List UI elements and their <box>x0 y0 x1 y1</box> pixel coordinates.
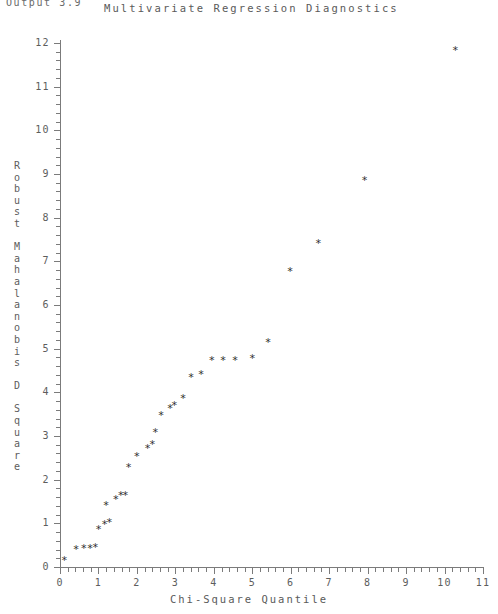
y-tick-minor <box>56 384 60 385</box>
y-tick-minor <box>56 506 60 507</box>
data-point: * <box>220 354 227 365</box>
y-tick-minor <box>56 52 60 53</box>
y-tick-minor <box>56 122 60 123</box>
x-axis-title: Chi-Square Quantile <box>0 593 498 605</box>
x-tick-minor <box>383 568 384 572</box>
x-tick-minor <box>414 568 415 572</box>
x-tick-minor <box>222 568 223 572</box>
data-point: * <box>152 427 159 438</box>
x-tick-major <box>175 568 176 574</box>
y-tick-minor <box>56 191 60 192</box>
y-tick-minor <box>56 410 60 411</box>
x-tick-label: 10 <box>430 577 460 588</box>
y-tick-label-wrap: 8 <box>20 218 50 230</box>
y-tick-minor <box>56 366 60 367</box>
data-point: * <box>232 354 239 365</box>
y-tick-minor <box>56 104 60 105</box>
x-tick-minor <box>114 568 115 572</box>
y-tick-label-wrap: 4 <box>20 392 50 404</box>
data-point: * <box>92 542 99 553</box>
x-tick-minor <box>229 568 230 572</box>
y-tick-minor <box>56 113 60 114</box>
y-tick-major <box>54 480 60 481</box>
x-tick-label: 11 <box>468 577 498 588</box>
y-tick-minor <box>56 253 60 254</box>
x-tick-minor <box>321 568 322 572</box>
y-tick-major <box>54 130 60 131</box>
y-tick-minor <box>56 157 60 158</box>
x-tick-minor <box>191 568 192 572</box>
y-tick-label-wrap: 11 <box>20 87 50 99</box>
x-tick-minor <box>268 568 269 572</box>
y-tick-major <box>54 87 60 88</box>
y-tick-minor <box>56 558 60 559</box>
y-tick-minor <box>56 183 60 184</box>
x-tick-minor <box>245 568 246 572</box>
x-tick-minor <box>91 568 92 572</box>
x-tick-minor <box>437 568 438 572</box>
y-tick-minor <box>56 488 60 489</box>
x-tick-minor <box>352 568 353 572</box>
y-tick-label-wrap: 12 <box>20 43 50 55</box>
data-point: * <box>209 354 216 365</box>
x-tick-major <box>291 568 292 574</box>
data-point: * <box>315 238 322 249</box>
x-tick-minor <box>275 568 276 572</box>
y-tick-label: 1 <box>28 517 50 528</box>
x-tick-minor <box>421 568 422 572</box>
x-tick-major <box>406 568 407 574</box>
y-tick-minor <box>56 419 60 420</box>
y-tick-minor <box>56 357 60 358</box>
y-tick-label-wrap: 7 <box>20 261 50 273</box>
x-tick-minor <box>145 568 146 572</box>
x-tick-label: 9 <box>391 577 421 588</box>
x-tick-minor <box>475 568 476 572</box>
data-point: * <box>106 516 113 527</box>
x-tick-minor <box>306 568 307 572</box>
y-tick-minor <box>56 60 60 61</box>
y-tick-minor <box>56 139 60 140</box>
y-tick-minor <box>56 331 60 332</box>
x-tick-major <box>252 568 253 574</box>
x-tick-major <box>329 568 330 574</box>
y-tick-label-wrap: 6 <box>20 305 50 317</box>
x-tick-label: 7 <box>314 577 344 588</box>
y-tick-major <box>54 436 60 437</box>
x-tick-minor <box>429 568 430 572</box>
data-point: * <box>125 462 132 473</box>
y-tick-label: 11 <box>28 81 50 92</box>
data-point: * <box>287 265 294 276</box>
y-tick-major <box>54 174 60 175</box>
data-point: * <box>265 337 272 348</box>
x-tick-minor <box>168 568 169 572</box>
y-tick-label-wrap: 1 <box>20 523 50 535</box>
x-tick-label: 4 <box>199 577 229 588</box>
y-tick-minor <box>56 471 60 472</box>
x-tick-minor <box>260 568 261 572</box>
data-point: * <box>188 371 195 382</box>
data-point: * <box>452 45 459 56</box>
y-tick-label: 12 <box>28 37 50 48</box>
x-tick-minor <box>83 568 84 572</box>
x-tick-minor <box>152 568 153 572</box>
x-tick-label: 1 <box>83 577 113 588</box>
y-tick-major <box>54 349 60 350</box>
y-tick-minor <box>56 453 60 454</box>
data-point: * <box>361 175 368 186</box>
x-tick-minor <box>375 568 376 572</box>
y-tick-minor <box>56 165 60 166</box>
x-tick-label: 8 <box>353 577 383 588</box>
x-tick-minor <box>314 568 315 572</box>
y-tick-minor <box>56 515 60 516</box>
y-tick-minor <box>56 270 60 271</box>
data-point: * <box>249 353 256 364</box>
y-tick-label: 9 <box>28 168 50 179</box>
y-tick-minor <box>56 200 60 201</box>
x-tick-label: 6 <box>276 577 306 588</box>
y-tick-minor <box>56 288 60 289</box>
y-tick-minor <box>56 375 60 376</box>
y-tick-minor <box>56 244 60 245</box>
x-tick-minor <box>298 568 299 572</box>
y-tick-major <box>54 523 60 524</box>
x-tick-major <box>445 568 446 574</box>
